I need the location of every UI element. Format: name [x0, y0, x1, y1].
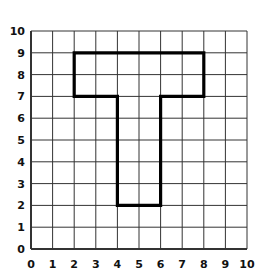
- x-tick-label: 10: [239, 258, 255, 271]
- y-tick-label: 8: [17, 69, 25, 82]
- x-tick-label: 9: [222, 258, 230, 271]
- x-tick-label: 8: [200, 258, 208, 271]
- coordinate-grid: 012345678910012345678910: [0, 0, 267, 276]
- y-tick-label: 5: [17, 134, 25, 147]
- x-tick-label: 2: [70, 258, 78, 271]
- x-tick-label: 0: [27, 258, 35, 271]
- y-tick-label: 0: [17, 243, 25, 256]
- y-tick-label: 1: [17, 221, 25, 234]
- y-tick-label: 9: [17, 47, 25, 60]
- x-tick-label: 5: [135, 258, 143, 271]
- grid-diagram: 012345678910012345678910: [0, 0, 267, 276]
- x-tick-label: 3: [92, 258, 100, 271]
- y-tick-label: 4: [17, 156, 25, 169]
- y-tick-label: 10: [10, 25, 26, 38]
- y-tick-label: 3: [17, 178, 25, 191]
- x-tick-label: 1: [49, 258, 57, 271]
- y-tick-label: 7: [17, 90, 25, 103]
- x-tick-label: 4: [114, 258, 122, 271]
- y-tick-label: 2: [17, 199, 25, 212]
- y-tick-label: 6: [17, 112, 25, 125]
- x-tick-label: 7: [178, 258, 186, 271]
- x-tick-label: 6: [157, 258, 165, 271]
